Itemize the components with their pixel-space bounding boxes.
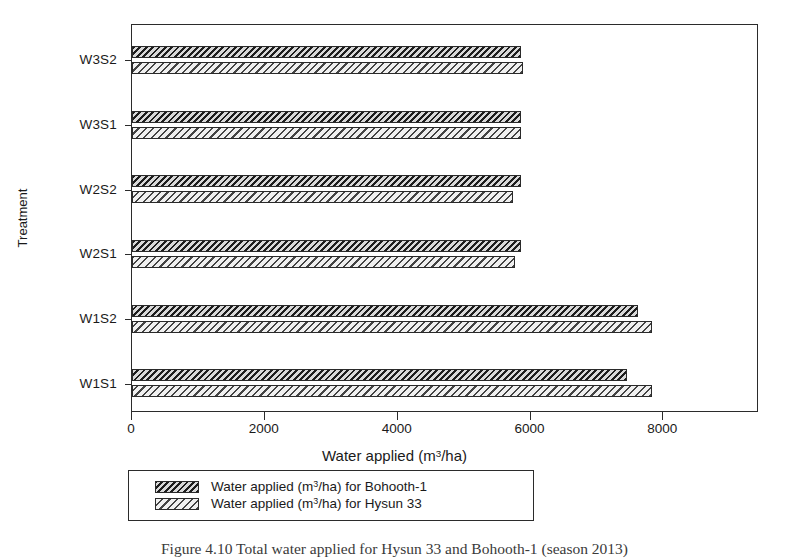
y-tick-label-w3s1: W3S1 — [79, 117, 117, 132]
legend-label-main: Water applied (m — [211, 479, 313, 494]
bar-w3s2-hysun-33 — [132, 62, 523, 74]
y-tick-w3s2 — [125, 60, 132, 61]
bar-w1s2-bohooth-1 — [132, 305, 638, 317]
y-tick-label-w2s1: W2S1 — [79, 246, 117, 261]
y-tick-w2s1 — [125, 254, 132, 255]
y-tick-w1s2 — [125, 319, 132, 320]
legend-label-tail: /ha) for Hysun 33 — [318, 496, 422, 511]
legend-label: Water applied (m3/ha) for Hysun 33 — [211, 496, 422, 511]
figure-caption: Figure 4.10 Total water applied for Hysu… — [0, 540, 789, 558]
bar-w3s2-bohooth-1 — [132, 46, 521, 58]
x-axis-tick-labels: 02000400060008000 — [131, 421, 758, 441]
x-tick-label-8000: 8000 — [647, 421, 677, 436]
y-tick-label-w2s2: W2S2 — [79, 181, 117, 196]
plot-frame — [131, 24, 758, 412]
y-tick-label-w1s1: W1S1 — [79, 375, 117, 390]
hatch-swatch-dark-icon — [155, 481, 199, 493]
chart-legend: Water applied (m3/ha) for Bohooth-1Water… — [128, 470, 534, 521]
y-tick-w3s1 — [125, 125, 132, 126]
x-axis-title-main: Water applied (m — [322, 447, 436, 464]
x-tick-label-6000: 6000 — [514, 421, 544, 436]
bar-w1s1-bohooth-1 — [132, 369, 627, 381]
legend-item-hysun-33[interactable]: Water applied (m3/ha) for Hysun 33 — [129, 495, 533, 512]
hatch-swatch-light-icon — [155, 498, 199, 510]
x-axis-title-tail: /ha) — [441, 447, 467, 464]
bar-w2s1-bohooth-1 — [132, 240, 521, 252]
legend-item-bohooth-1[interactable]: Water applied (m3/ha) for Bohooth-1 — [129, 478, 533, 495]
bar-w2s2-hysun-33 — [132, 191, 513, 203]
plot-area — [132, 25, 757, 411]
legend-label-tail: /ha) for Bohooth-1 — [318, 479, 427, 494]
bar-w2s2-bohooth-1 — [132, 175, 521, 187]
y-tick-w1s1 — [125, 384, 132, 385]
x-tick-6000 — [530, 412, 531, 420]
bar-w1s1-hysun-33 — [132, 385, 652, 397]
bar-w3s1-bohooth-1 — [132, 111, 521, 123]
y-tick-w2s2 — [125, 190, 132, 191]
x-tick-label-2000: 2000 — [249, 421, 279, 436]
bar-w3s1-hysun-33 — [132, 127, 521, 139]
x-tick-2000 — [264, 412, 265, 420]
x-axis-title: Water applied (m3/ha) — [0, 447, 789, 464]
x-tick-8000 — [662, 412, 663, 420]
x-tick-0 — [131, 412, 132, 420]
y-tick-label-w1s2: W1S2 — [79, 311, 117, 326]
bar-w1s2-hysun-33 — [132, 321, 652, 333]
bar-w2s1-hysun-33 — [132, 256, 515, 268]
legend-label: Water applied (m3/ha) for Bohooth-1 — [211, 479, 427, 494]
legend-label-main: Water applied (m — [211, 496, 313, 511]
x-tick-label-4000: 4000 — [382, 421, 412, 436]
y-tick-label-w3s2: W3S2 — [79, 52, 117, 67]
x-tick-4000 — [397, 412, 398, 420]
x-tick-label-0: 0 — [127, 421, 135, 436]
y-axis-tick-labels: W1S1W1S2W2S1W2S2W3S1W3S2 — [0, 24, 131, 412]
